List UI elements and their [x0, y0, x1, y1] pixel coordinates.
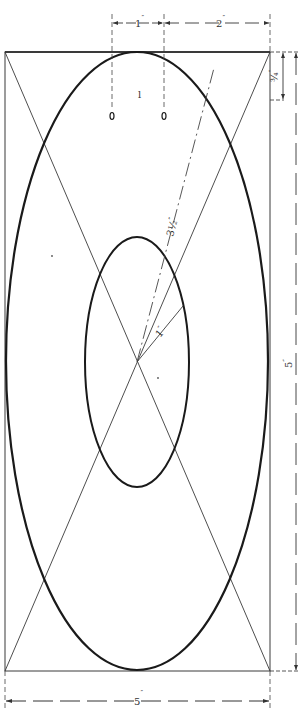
right-small-dimension-label: ¾″ — [268, 69, 280, 82]
inner-radius-label: 1″ — [152, 324, 167, 339]
svg-text:1″: 1″ — [152, 324, 167, 339]
arrow-right-icon — [158, 21, 163, 25]
arrow-right-icon — [264, 21, 269, 25]
svg-text:¾″: ¾″ — [268, 69, 280, 82]
arrow-up-icon — [281, 53, 285, 58]
arrow-down-icon — [294, 665, 298, 670]
top-dimension-1-label: 1″ — [135, 14, 144, 29]
arrow-down-icon — [281, 94, 285, 99]
top-dimension-2-label: 2″ — [216, 14, 225, 29]
arrow-right-icon — [263, 699, 269, 703]
stray-mark — [51, 255, 53, 257]
hole-mark-label: l — [138, 89, 141, 100]
right-height-dimension-label: 5″ — [282, 359, 294, 368]
outer-radius-dashed-line — [137, 68, 214, 362]
svg-text:5″: 5″ — [282, 359, 294, 368]
svg-text:3½″: 3½″ — [163, 216, 180, 238]
outer-radius-label: 3½″ — [163, 216, 180, 238]
bottom-width-dimension-label: 5″ — [134, 689, 143, 707]
arrow-up-icon — [294, 53, 298, 58]
pin-hole-left — [110, 113, 114, 120]
stray-mark — [157, 377, 159, 379]
pin-hole-right — [162, 113, 166, 120]
arrow-left-icon — [6, 699, 12, 703]
elliptical-template-drawing: 3½″ 1″ l 1″ 2″ ¾″ 5″ — [0, 0, 304, 718]
arrow-left-icon — [113, 21, 118, 25]
arrow-left-icon — [165, 21, 170, 25]
